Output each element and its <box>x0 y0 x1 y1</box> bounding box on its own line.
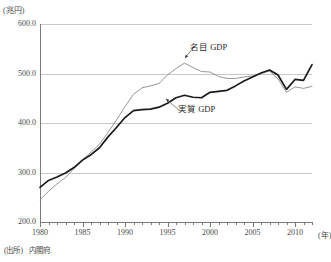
x-tick-2001 <box>219 222 220 225</box>
x-tick-label-2005: 2005 <box>245 229 261 237</box>
x-tick-label-1985: 1985 <box>75 229 91 237</box>
x-tick-1992 <box>142 222 143 225</box>
x-tick-2007 <box>270 222 271 225</box>
x-tick-1981 <box>49 222 50 225</box>
x-tick-1985 <box>83 222 84 227</box>
x-tick-1989 <box>117 222 118 225</box>
x-tick-1996 <box>176 222 177 225</box>
x-tick-label-2000: 2000 <box>202 229 218 237</box>
x-tick-1993 <box>151 222 152 225</box>
x-tick-2008 <box>278 222 279 225</box>
x-tick-1984 <box>74 222 75 225</box>
x-tick-1998 <box>193 222 194 225</box>
annotation-leaders <box>40 24 312 223</box>
x-tick-2010 <box>295 222 296 227</box>
x-tick-label-1990: 1990 <box>117 229 133 237</box>
x-tick-2012 <box>312 222 313 225</box>
x-tick-1995 <box>168 222 169 227</box>
x-tick-1983 <box>66 222 67 225</box>
x-tick-2000 <box>210 222 211 227</box>
y-tick-label-300: 300.0 <box>18 169 36 177</box>
real-gdp-annotation: 実質 GDP <box>178 105 215 114</box>
x-tick-1999 <box>202 222 203 225</box>
y-tick-label-200: 200.0 <box>18 218 36 226</box>
x-tick-1997 <box>185 222 186 225</box>
source-label: (出所) <box>4 246 23 255</box>
x-tick-2004 <box>244 222 245 225</box>
chart-figure: (兆円) 600.0 500.0 400.0 300.0 200.0 <box>0 0 331 262</box>
x-tick-2011 <box>304 222 305 225</box>
y-axis-unit-label: (兆円) <box>3 4 24 15</box>
x-tick-2003 <box>236 222 237 225</box>
x-tick-label-1980: 1980 <box>32 229 48 237</box>
x-tick-1987 <box>100 222 101 225</box>
source-note: (出所)内閣府. <box>4 244 52 255</box>
x-tick-label-2010: 2010 <box>287 229 303 237</box>
x-tick-1994 <box>159 222 160 225</box>
plot-area: 600.0 500.0 400.0 300.0 200.0 1980198 <box>40 24 312 222</box>
x-tick-1986 <box>91 222 92 225</box>
x-tick-1990 <box>125 222 126 227</box>
x-tick-label-1995: 1995 <box>160 229 176 237</box>
x-tick-1982 <box>57 222 58 225</box>
x-tick-1980 <box>40 222 41 227</box>
nominal-gdp-annotation: 名目 GDP <box>190 43 227 52</box>
source-text: 内閣府. <box>29 246 52 255</box>
x-tick-2009 <box>287 222 288 225</box>
x-tick-2006 <box>261 222 262 225</box>
x-tick-2005 <box>253 222 254 227</box>
x-tick-1991 <box>134 222 135 225</box>
x-tick-2002 <box>227 222 228 225</box>
y-tick-label-400: 400.0 <box>18 119 36 127</box>
y-tick-label-500: 500.0 <box>18 70 36 78</box>
x-tick-1988 <box>108 222 109 225</box>
y-tick-label-600: 600.0 <box>18 20 36 28</box>
x-axis-unit-label: (年) <box>318 229 331 240</box>
